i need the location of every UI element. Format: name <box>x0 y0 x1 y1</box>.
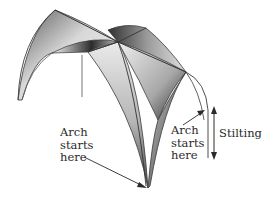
label-left-arch-starts-here: Arch starts here <box>60 126 93 164</box>
stilted-vault-diagram: Arch starts here Arch starts here Stilti… <box>0 0 267 201</box>
stilting-arrowhead-up <box>211 106 217 114</box>
stilting-arrowhead-down <box>211 152 217 160</box>
vault-illustration <box>0 0 267 201</box>
label-stilting: Stilting <box>219 127 262 140</box>
label-right-arch-starts-here: Arch starts here <box>171 124 204 162</box>
